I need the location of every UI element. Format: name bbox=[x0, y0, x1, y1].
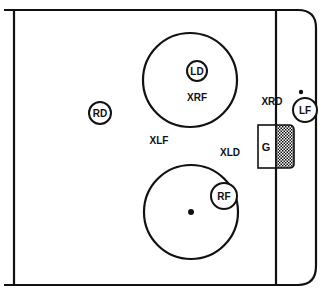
player-rd: RD bbox=[89, 102, 111, 124]
player-ld: LD bbox=[187, 61, 207, 81]
marker-xrd: XRD bbox=[261, 96, 282, 107]
player-lf: LF bbox=[293, 98, 317, 122]
marker-xlf: XLF bbox=[150, 135, 169, 146]
hockey-rink-diagram: G LD RD LF RF XRF XRD XLF XLD bbox=[0, 0, 325, 292]
marker-xrf: XRF bbox=[187, 92, 207, 103]
goalie-label: G bbox=[262, 141, 271, 153]
goal: G bbox=[258, 125, 294, 168]
goal-net bbox=[276, 125, 294, 168]
marker-xld: XLD bbox=[220, 147, 240, 158]
svg-text:LF: LF bbox=[299, 105, 311, 116]
player-rf: RF bbox=[211, 183, 237, 209]
svg-text:RF: RF bbox=[217, 191, 230, 202]
svg-text:RD: RD bbox=[93, 108, 107, 119]
puck-dot bbox=[299, 90, 303, 94]
faceoff-dot bbox=[188, 209, 194, 215]
svg-text:LD: LD bbox=[190, 66, 203, 77]
top-faceoff-circle bbox=[143, 33, 237, 127]
